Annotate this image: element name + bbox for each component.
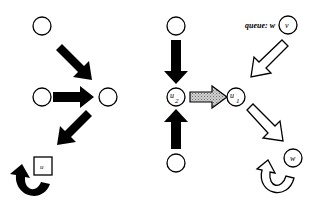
arrow-left-to-mid-icon — [53, 86, 94, 108]
node-mid-bottom — [167, 154, 185, 172]
middle-panel: u 2 u 1 — [164, 17, 245, 172]
arrow-u1-to-w-icon — [247, 104, 283, 141]
arrow-v-to-u1-icon — [251, 40, 288, 77]
right-panel: queue: w v w — [245, 16, 302, 192]
diagram-canvas: u u 2 u 1 queue: w v w — [0, 0, 316, 212]
node-left-mid — [33, 88, 51, 106]
node-u2-subscript: 2 — [175, 97, 179, 105]
arrow-mid-to-u-icon — [57, 110, 92, 145]
node-u2-label: u — [170, 91, 174, 100]
node-v-label: v — [285, 21, 289, 30]
node-left-top — [33, 17, 51, 35]
arrow-top-to-u2-icon — [164, 40, 188, 84]
arrow-top-to-mid-icon — [56, 44, 92, 80]
node-mid-top — [167, 17, 185, 35]
node-u1-subscript: 1 — [236, 97, 240, 105]
node-w-label: w — [290, 154, 296, 163]
node-right-mid — [99, 88, 117, 106]
queue-label: queue: w — [245, 21, 276, 30]
node-u1-label: u — [230, 91, 234, 100]
left-panel: u — [10, 17, 117, 196]
arrow-bottom-to-u2-icon — [164, 109, 188, 149]
arrow-u2-to-u1-icon — [190, 86, 227, 108]
node-u-label: u — [40, 163, 44, 171]
